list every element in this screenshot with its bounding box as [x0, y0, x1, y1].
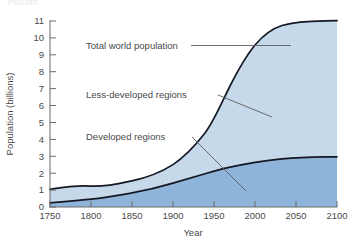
clipped-top-caption: FIGURE — [8, 0, 38, 7]
x-tick-label: 1850 — [121, 210, 142, 221]
x-tick-label: 1750 — [39, 210, 60, 221]
y-tick-label: 5 — [39, 117, 44, 128]
x-axis-title: Year — [183, 227, 202, 238]
x-tick-label: 1950 — [203, 210, 224, 221]
y-tick-label: 10 — [33, 32, 44, 43]
label-developed-regions: Developed regions — [86, 131, 165, 142]
x-tick-label: 2050 — [285, 210, 306, 221]
x-axis-tick-labels: 1750 1800 1850 1900 1950 2000 2050 2100 — [39, 210, 347, 221]
y-tick-label: 6 — [39, 100, 44, 111]
x-tick-label: 2000 — [244, 210, 265, 221]
y-tick-label: 1 — [39, 184, 44, 195]
label-less-developed-regions: Less-developed regions — [86, 89, 187, 100]
y-axis-tick-labels: 0 1 2 3 4 5 6 7 8 9 10 11 — [33, 15, 44, 212]
y-tick-label: 11 — [34, 15, 44, 26]
label-total-world-population: Total world population — [86, 40, 178, 51]
y-tick-label: 8 — [39, 66, 44, 77]
y-tick-label: 7 — [39, 83, 44, 94]
chart-canvas: FIGURE — [0, 0, 360, 252]
y-axis-ticks — [50, 21, 56, 207]
y-tick-label: 3 — [39, 151, 44, 162]
x-tick-label: 1800 — [80, 210, 101, 221]
y-tick-label: 2 — [39, 168, 44, 179]
x-tick-label: 2100 — [326, 210, 347, 221]
y-axis-title: Population (billions) — [4, 73, 15, 156]
y-tick-label: 9 — [39, 49, 44, 60]
y-tick-label: 4 — [39, 134, 44, 145]
x-tick-label: 1900 — [162, 210, 183, 221]
population-chart-figure: FIGURE — [0, 0, 360, 252]
